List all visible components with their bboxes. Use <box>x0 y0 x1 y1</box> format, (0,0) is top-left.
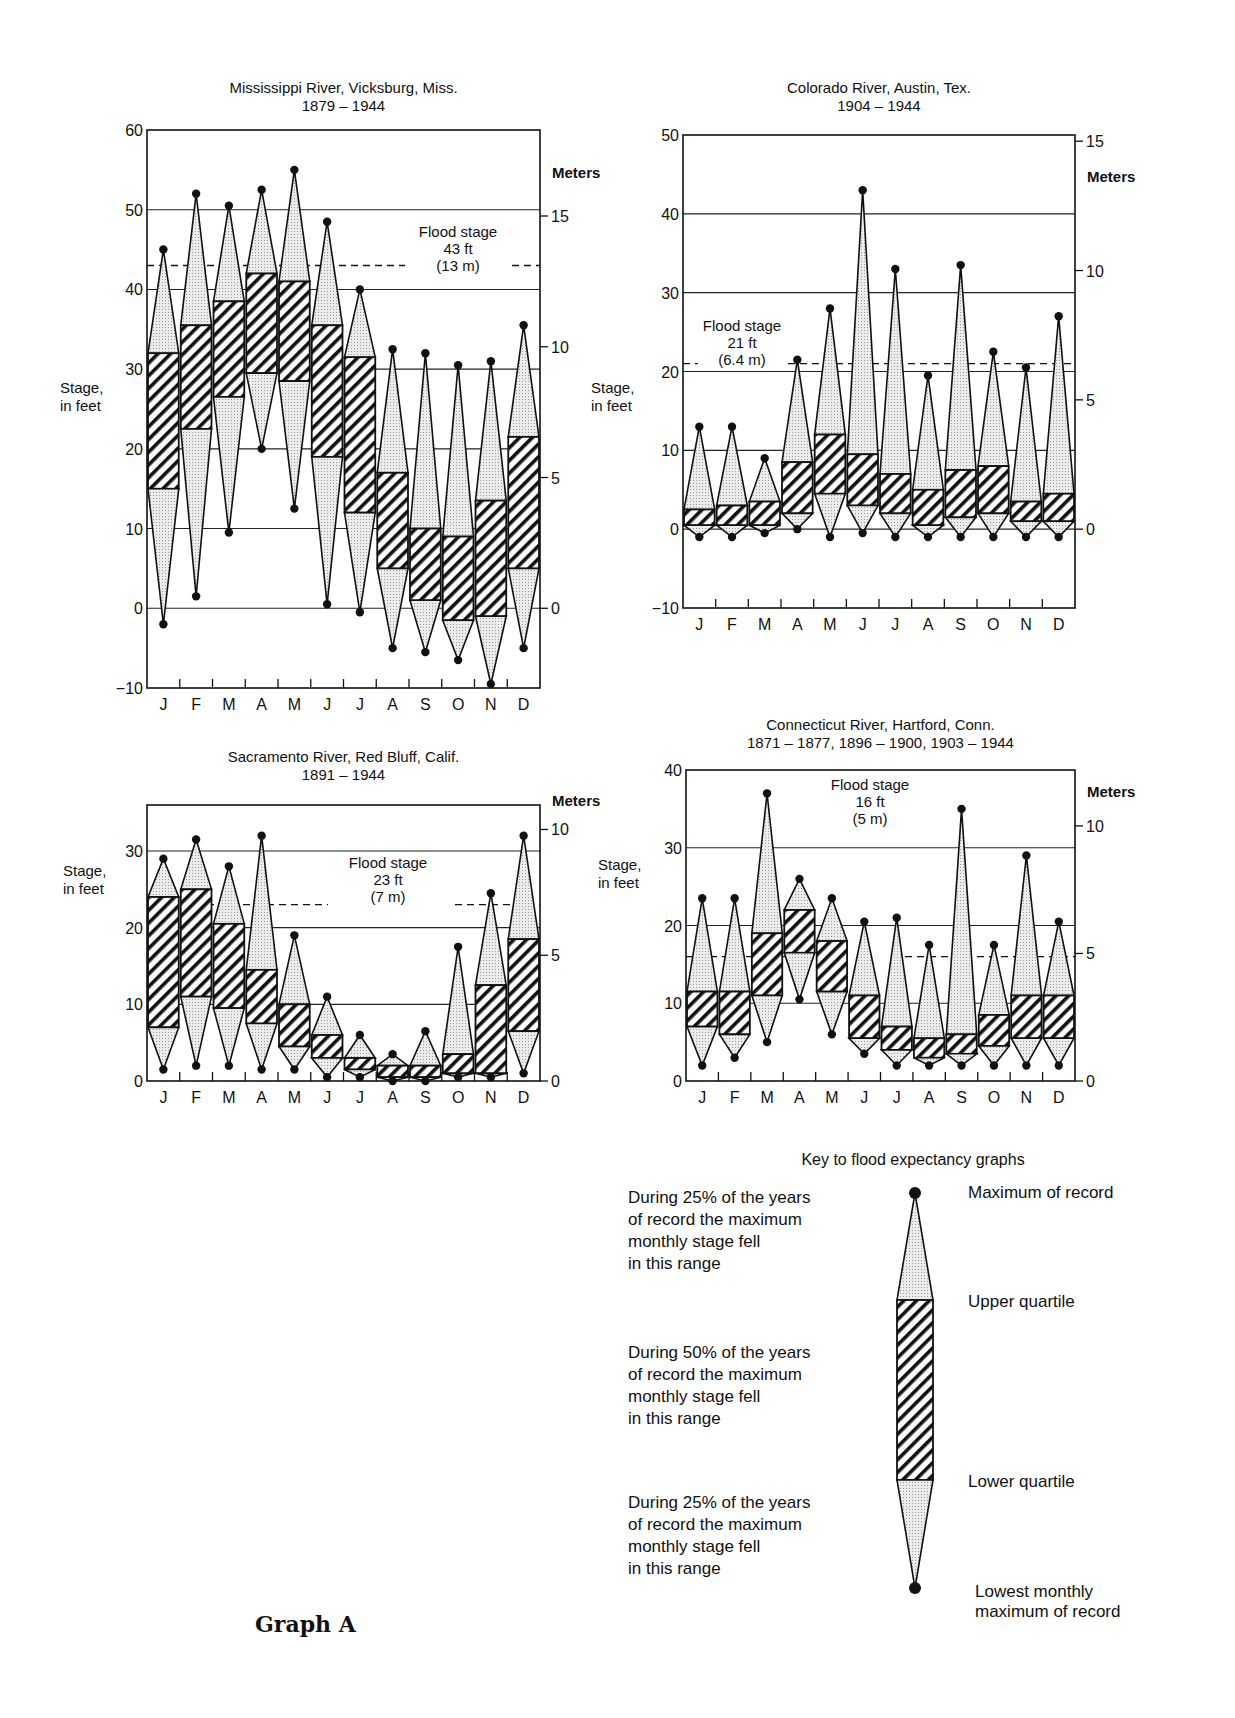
middle-range-box <box>784 910 814 953</box>
max-of-record-dot <box>225 202 233 210</box>
month-label: D <box>1053 1089 1065 1106</box>
chart-panel-2: Colorado River, Austin, Tex.1904 – 1944F… <box>591 79 1135 633</box>
lowest-max-dot <box>519 1069 527 1077</box>
lower-range-triangle <box>443 620 474 660</box>
lowest-max-dot <box>1022 533 1030 541</box>
month-label: J <box>698 1089 706 1106</box>
lowest-max-dot <box>795 995 803 1003</box>
lowest-max-dot <box>257 1065 265 1073</box>
month-glyph-M <box>817 894 847 1038</box>
y-tick-label: 30 <box>664 840 682 857</box>
month-glyph-A <box>913 371 944 541</box>
month-label: J <box>323 1089 331 1106</box>
month-label: N <box>1021 1089 1033 1106</box>
month-glyph-J <box>148 245 179 628</box>
y-axis-title: in feet <box>591 397 633 414</box>
month-glyph-J <box>880 265 911 541</box>
lowest-max-dot <box>860 1050 868 1058</box>
y2-tick-label: 5 <box>551 470 560 487</box>
key-description: in this range <box>628 1409 721 1428</box>
lowest-max-dot <box>956 533 964 541</box>
month-glyph-O <box>443 361 474 664</box>
upper-range-triangle <box>410 1031 441 1066</box>
lowest-max-dot <box>192 592 200 600</box>
middle-range-box <box>752 933 782 995</box>
month-glyph-S <box>946 805 976 1070</box>
upper-range-triangle <box>913 375 944 489</box>
y-axis-title: Stage, <box>63 862 106 879</box>
lowest-max-dot <box>957 1061 965 1069</box>
upper-range-triangle <box>782 360 813 462</box>
month-label: S <box>420 1089 431 1106</box>
middle-range-box <box>279 1004 310 1046</box>
y2-tick-label: 0 <box>551 600 560 617</box>
flood-stage-label: (5 m) <box>853 810 888 827</box>
month-glyph-M <box>749 454 780 537</box>
y2-axis-title: Meters <box>1087 783 1135 800</box>
month-label: J <box>159 696 167 713</box>
lowest-max-dot <box>257 445 265 453</box>
upper-range-triangle <box>312 997 343 1035</box>
y-tick-label: 30 <box>125 361 143 378</box>
lower-range-triangle <box>246 373 277 449</box>
upper-range-triangle <box>849 922 879 996</box>
y-tick-label: 40 <box>661 206 679 223</box>
key-description: During 50% of the years <box>628 1343 810 1362</box>
middle-range-box <box>882 1027 912 1050</box>
max-of-record-dot <box>388 345 396 353</box>
key-description: in this range <box>628 1254 721 1273</box>
max-of-record-dot <box>989 348 997 356</box>
month-glyph-S <box>945 261 976 541</box>
upper-range-triangle <box>1011 368 1042 502</box>
lowest-max-dot <box>730 1053 738 1061</box>
lowest-max-dot <box>1055 1061 1063 1069</box>
month-label: M <box>288 696 301 713</box>
month-glyph-N <box>476 357 507 688</box>
max-of-record-dot <box>1054 312 1062 320</box>
month-label: D <box>1053 616 1065 633</box>
month-glyph-J <box>312 992 343 1081</box>
key-max-dot <box>909 1187 921 1199</box>
middle-range-box <box>1043 494 1074 522</box>
upper-range-triangle <box>508 325 539 437</box>
middle-range-box <box>847 454 878 505</box>
upper-range-triangle <box>817 898 847 941</box>
max-of-record-dot <box>698 894 706 902</box>
middle-range-box <box>410 1066 441 1078</box>
max-of-record-dot <box>957 805 965 813</box>
middle-range-box <box>345 357 376 512</box>
month-label: M <box>825 1089 838 1106</box>
month-glyph-D <box>508 831 539 1077</box>
y-tick-label: 20 <box>125 441 143 458</box>
upper-range-triangle <box>181 840 212 890</box>
month-label: A <box>923 616 934 633</box>
upper-range-triangle <box>945 265 976 470</box>
month-glyph-J <box>687 894 717 1070</box>
max-of-record-dot <box>858 186 866 194</box>
lowest-max-dot <box>159 1065 167 1073</box>
upper-range-triangle <box>847 190 878 454</box>
key-description: in this range <box>628 1559 721 1578</box>
month-label: S <box>956 1089 967 1106</box>
month-label: M <box>222 696 235 713</box>
month-label: A <box>792 616 803 633</box>
lower-range-triangle <box>214 397 245 533</box>
chart-subtitle: 1904 – 1944 <box>837 97 920 114</box>
max-of-record-dot <box>454 943 462 951</box>
upper-range-triangle <box>443 365 474 536</box>
y-tick-label: 10 <box>125 521 143 538</box>
key-title: Key to flood expectancy graphs <box>801 1151 1024 1168</box>
lower-range-triangle <box>246 1024 277 1070</box>
lower-range-triangle <box>687 1027 717 1066</box>
month-label: O <box>452 696 464 713</box>
middle-range-box <box>377 473 408 569</box>
month-glyph-J <box>847 186 878 537</box>
middle-range-box <box>849 995 879 1038</box>
max-of-record-dot <box>730 894 738 902</box>
chart-subtitle: 1879 – 1944 <box>302 97 385 114</box>
middle-range-box <box>1044 995 1074 1038</box>
month-label: O <box>988 1089 1000 1106</box>
max-of-record-dot <box>728 422 736 430</box>
max-of-record-dot <box>323 217 331 225</box>
max-of-record-dot <box>487 357 495 365</box>
